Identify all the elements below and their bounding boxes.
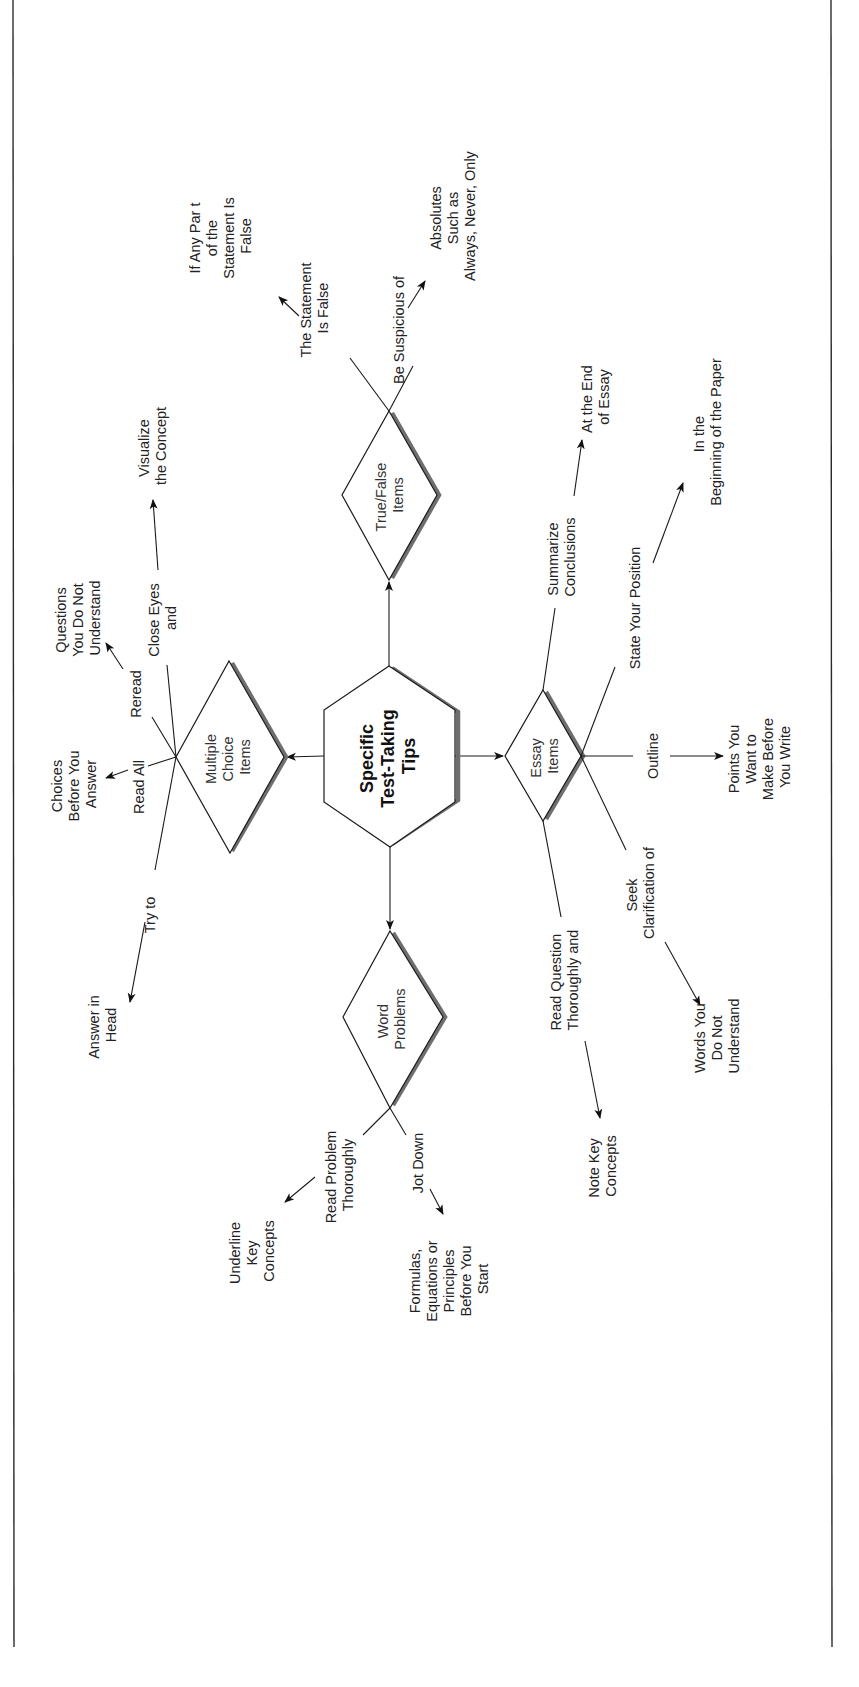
essay-seek-arrow [665, 942, 700, 1005]
essay-node: Essay Items [505, 690, 583, 821]
mc-label-line-2: Choice [220, 736, 236, 781]
tf-label-line-2: Items [390, 477, 406, 512]
wp-formulas-line-5: Start [475, 1264, 491, 1295]
svg-text:Outline: Outline [645, 733, 661, 779]
essay-read-question-line-2: Thoroughly and [565, 930, 581, 1031]
essay-position-line [581, 667, 615, 756]
svg-text:Seek Clarification of: Seek Clarification of [624, 846, 657, 939]
essay-label-line-1: Essay [528, 738, 544, 778]
essay-words-line-1: Words You [692, 1003, 708, 1073]
svg-text:At the End of Essay: At the End of Essay [579, 361, 612, 433]
svg-text:Reread: Reread [128, 670, 144, 718]
svg-text:Absolutes Such as Alwa: Absolutes Such as Always, Never, Only [428, 150, 478, 280]
mc-visualize-line-1: Visualize [136, 419, 152, 477]
wp-formulas-line-4: Before You [458, 1246, 474, 1317]
svg-text:Visualize the Concept: Visualize the Concept [136, 407, 169, 485]
mc-answer-head-line-2: Head [103, 1008, 119, 1043]
svg-text:Summarize Conclusions: Summarize Conclusions [545, 518, 578, 597]
right-page-border [831, 0, 832, 1647]
essay-words-line-3: Understand [726, 999, 742, 1074]
mc-read-all-line [148, 757, 176, 766]
essay-summarize-line-1: Summarize [545, 522, 561, 595]
hub-to-multiplechoice-connector [287, 756, 324, 757]
essay-seek-line-1: Seek [624, 878, 640, 912]
svg-text:Formulas, Equations or: Formulas, Equations or Principles Before… [407, 1236, 491, 1321]
tf-suspicious-label: Be Suspicious of [391, 275, 407, 384]
tf-statement-line-1: The Statement [298, 262, 314, 357]
test-taking-tips-diagram: Specific Test-Taking Tips Multiple Choic… [0, 0, 859, 1687]
essay-note-key-line-1: Note Key [586, 1137, 602, 1197]
svg-text:Note Key Concepts: Note Key Concepts [586, 1134, 619, 1198]
svg-text:The Statement Is False: The Statement Is False [298, 258, 331, 357]
essay-note-key-line-2: Concepts [603, 1135, 619, 1196]
tf-absolutes-line-2: Such as [445, 192, 461, 244]
essay-outline-label: Outline [645, 733, 661, 779]
essay-at-end-line-1: At the End [579, 365, 595, 433]
svg-text:In the Beginning of the Pa: In the Beginning of the Paper [691, 358, 724, 506]
hub-label-line-3: Tips [399, 738, 419, 775]
mc-try-to-label: Try to [142, 897, 158, 934]
essay-points-line-4: You Write [777, 726, 793, 788]
tf-if-any-line-1: If Any Par t [187, 203, 203, 274]
hub-label-line-1: Specific [357, 724, 377, 793]
mc-questions-line-1: Questions [53, 587, 69, 652]
wp-underline-line-1: Underline [227, 1222, 243, 1284]
essay-summarize-line-2: Conclusions [562, 518, 578, 597]
mc-close-eyes-line-1: Close Eyes [146, 583, 162, 656]
tf-statement-line [350, 358, 389, 411]
svg-text:Choices Before You Ans: Choices Before You Answer [49, 747, 99, 822]
mc-choices-line-1: Choices [49, 760, 65, 812]
wp-read-problem-arrow [285, 1177, 315, 1202]
essay-points-line-1: Points You [726, 725, 742, 794]
mc-questions-line-2: You Do Not [70, 583, 86, 657]
wp-jot-down-line [390, 1108, 406, 1135]
svg-text:Try to: Try to [142, 897, 158, 934]
svg-text:Points You Want to Mak: Points You Want to Make Before You Write [726, 714, 793, 800]
hub-hexagon: Specific Test-Taking Tips [324, 666, 458, 847]
mc-label-line-1: Multiple [203, 734, 219, 784]
wp-jot-down-arrow [430, 1189, 443, 1214]
essay-points-line-3: Make Before [760, 718, 776, 800]
wp-underline-line-2: Key [244, 1240, 260, 1266]
wp-read-problem-line-1: Read Problem [323, 1131, 339, 1224]
wp-jot-down-label: Jot Down [410, 1133, 426, 1193]
essay-beginning-line-2: Beginning of the Paper [708, 358, 724, 506]
svg-text:Words You Do Not Under: Words You Do Not Understand [692, 999, 742, 1074]
mc-read-all-label: Read All [131, 760, 147, 814]
essay-position-arrow [653, 483, 683, 563]
wp-formulas-line-3: Principles [441, 1250, 457, 1313]
svg-text:Be Suspicious of: Be Suspicious of [391, 275, 407, 384]
svg-text:Answer in Head: Answer in Head [86, 991, 119, 1059]
tf-absolutes-line-1: Absolutes [428, 186, 444, 250]
mc-label-line-3: Items [237, 739, 253, 774]
wp-label-line-2: Problems [392, 988, 408, 1049]
mc-close-eyes-line-2: and [163, 606, 179, 630]
svg-text:Read Problem Thoroughly: Read Problem Thoroughly [323, 1127, 356, 1224]
wp-label-line-1: Word [375, 1004, 391, 1038]
tf-suspicious-arrow [408, 281, 425, 308]
tf-statement-arrow [279, 297, 299, 316]
tf-if-any-line-4: False [238, 218, 254, 253]
svg-text:Read All: Read All [131, 760, 147, 814]
essay-words-line-2: Do Not [709, 1015, 725, 1060]
wp-formulas-line-1: Formulas, [407, 1249, 423, 1313]
essay-position-label: State Your Position [627, 547, 643, 670]
essay-at-end-line-2: of Essay [596, 368, 612, 424]
mc-choices-line-3: Answer [83, 760, 99, 809]
wp-read-problem-line-2: Thoroughly [340, 1138, 356, 1211]
essay-summarize-line [543, 608, 555, 690]
mc-visualize-line-2: the Concept [153, 407, 169, 485]
essay-read-question-line-1: Read Question [548, 934, 564, 1031]
essay-read-question-line [543, 821, 561, 917]
mc-try-to-line [155, 757, 176, 870]
wp-underline-line-3: Concepts [261, 1220, 277, 1281]
svg-text:Read Question Thoroughly a: Read Question Thoroughly and [548, 930, 581, 1031]
mc-read-all-arrow [106, 770, 128, 778]
mc-questions-line-3: Understand [87, 581, 103, 656]
svg-text:State Your Position: State Your Position [627, 547, 643, 670]
tf-label-line-1: True/False [373, 463, 389, 532]
tf-absolutes-line-3: Always, Never, Only [462, 150, 478, 280]
hub-label-line-2: Test-Taking [378, 709, 398, 807]
tf-if-any-line-2: of the [204, 220, 220, 256]
essay-read-question-arrow [585, 1041, 600, 1118]
